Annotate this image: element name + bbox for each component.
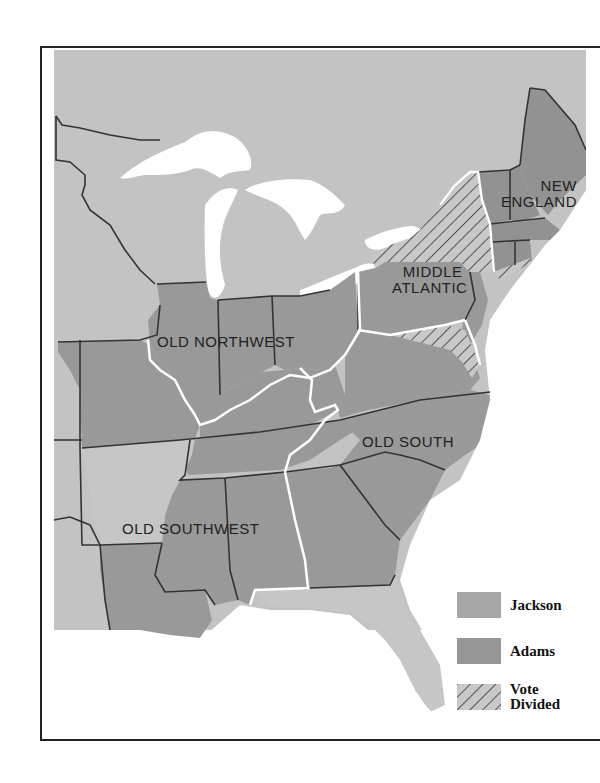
vote-divided-line1: Vote	[510, 682, 560, 697]
middle-atlantic-line2: ATLANTIC	[392, 280, 467, 296]
jackson-swatch	[457, 592, 501, 618]
region-label-old-northwest: OLD NORTHWEST	[157, 334, 295, 350]
legend-label-jackson: Jackson	[510, 598, 562, 613]
legend-item-adams: Adams	[457, 638, 555, 664]
vote-divided-line2: Divided	[510, 697, 560, 712]
adams-swatch	[457, 638, 501, 664]
middle-atlantic-line1: MIDDLE	[392, 264, 467, 280]
region-label-old-southwest: OLD SOUTHWEST	[122, 521, 259, 537]
region-label-old-south: OLD SOUTH	[362, 434, 454, 450]
region-label-middle-atlantic: MIDDLE ATLANTIC	[392, 264, 467, 296]
legend-item-jackson: Jackson	[457, 592, 562, 618]
vote-divided-swatch	[457, 684, 501, 710]
legend-item-vote-divided: Vote Divided	[457, 682, 560, 712]
legend-label-vote-divided: Vote Divided	[510, 682, 560, 712]
new-england-line1: NEW	[524, 178, 577, 194]
region-label-new-england: NEW ENGLAND	[524, 178, 577, 210]
new-england-line2: ENGLAND	[501, 194, 577, 210]
legend-label-adams: Adams	[510, 644, 555, 659]
